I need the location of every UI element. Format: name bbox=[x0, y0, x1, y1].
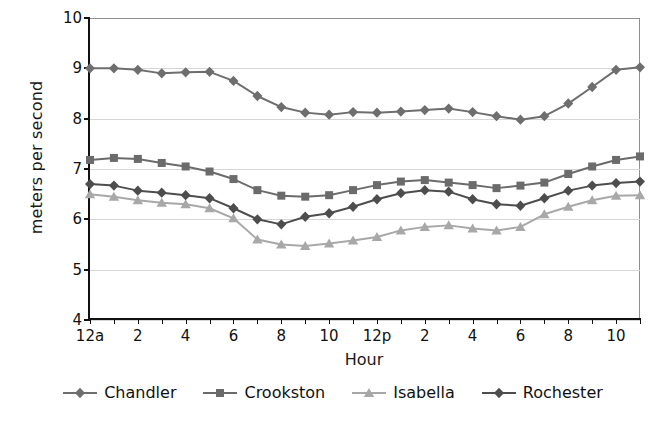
data-point-crookston-12 bbox=[373, 181, 381, 189]
chart-legend: ChandlerCrookstonIsabellaRochester bbox=[0, 383, 665, 402]
data-point-chandler-18 bbox=[515, 114, 525, 124]
data-point-crookston-6 bbox=[229, 175, 237, 183]
data-point-chandler-23 bbox=[635, 62, 645, 72]
x-tick-label-16: 4 bbox=[468, 327, 478, 345]
data-point-chandler-5 bbox=[205, 67, 215, 77]
data-point-rochester-13 bbox=[396, 188, 406, 198]
data-point-chandler-19 bbox=[539, 111, 549, 121]
data-point-crookston-7 bbox=[253, 186, 261, 194]
x-tick-label-0: 12a bbox=[76, 327, 104, 345]
data-point-crookston-18 bbox=[516, 182, 524, 190]
legend-item-rochester[interactable]: Rochester bbox=[481, 383, 603, 402]
y-tick-label-10: 10 bbox=[46, 9, 82, 27]
data-point-crookston-11 bbox=[349, 186, 357, 194]
data-point-chandler-2 bbox=[133, 65, 143, 75]
data-point-rochester-12 bbox=[372, 194, 382, 204]
series-chandler bbox=[85, 62, 645, 125]
data-point-chandler-6 bbox=[228, 76, 238, 86]
data-point-chandler-17 bbox=[492, 111, 502, 121]
data-point-rochester-15 bbox=[444, 186, 454, 196]
x-tick-label-12: 12p bbox=[363, 327, 392, 345]
data-point-rochester-18 bbox=[515, 201, 525, 211]
y-tick-label-8: 8 bbox=[46, 110, 82, 128]
series-line-chandler bbox=[90, 67, 640, 119]
data-point-rochester-2 bbox=[133, 185, 143, 195]
data-point-isabella-18 bbox=[515, 222, 525, 231]
data-point-chandler-16 bbox=[468, 107, 478, 117]
data-point-chandler-3 bbox=[157, 68, 167, 78]
data-point-crookston-10 bbox=[325, 191, 333, 199]
legend-item-chandler[interactable]: Chandler bbox=[62, 383, 176, 402]
wind-speed-line-chart: meters per second 45678910 12a24681012p2… bbox=[0, 0, 665, 423]
data-point-crookston-13 bbox=[397, 178, 405, 186]
data-point-crookston-3 bbox=[158, 159, 166, 167]
data-point-chandler-10 bbox=[324, 109, 334, 119]
legend-marker-diamond-icon bbox=[62, 385, 98, 401]
data-point-chandler-14 bbox=[420, 105, 430, 115]
x-tick-label-4: 4 bbox=[181, 327, 191, 345]
y-axis-title: meters per second bbox=[27, 38, 46, 278]
data-point-crookston-19 bbox=[540, 179, 548, 187]
data-point-crookston-14 bbox=[421, 176, 429, 184]
data-point-chandler-8 bbox=[276, 102, 286, 112]
legend-marker-triangle-icon bbox=[351, 385, 387, 401]
y-tick-label-9: 9 bbox=[46, 59, 82, 77]
data-point-crookston-17 bbox=[493, 184, 501, 192]
plot-area: 45678910 12a24681012p246810 bbox=[88, 18, 640, 320]
data-point-rochester-5 bbox=[205, 193, 215, 203]
data-point-crookston-1 bbox=[110, 154, 118, 162]
data-point-chandler-15 bbox=[444, 103, 454, 113]
gridline-y-4 bbox=[90, 320, 640, 321]
legend-marker-diamond-icon bbox=[481, 385, 517, 401]
data-point-crookston-23 bbox=[636, 152, 644, 160]
data-point-rochester-14 bbox=[420, 185, 430, 195]
data-point-chandler-11 bbox=[348, 107, 358, 117]
legend-label-isabella: Isabella bbox=[393, 383, 455, 402]
x-axis-title: Hour bbox=[88, 350, 640, 369]
data-point-chandler-7 bbox=[252, 91, 262, 101]
x-tick-label-8: 8 bbox=[277, 327, 287, 345]
data-point-rochester-11 bbox=[348, 202, 358, 212]
series-line-crookston bbox=[90, 156, 640, 196]
legend-item-isabella[interactable]: Isabella bbox=[351, 383, 455, 402]
data-point-rochester-3 bbox=[157, 187, 167, 197]
x-tick-label-22: 10 bbox=[607, 327, 626, 345]
data-point-rochester-1 bbox=[109, 180, 119, 190]
legend-item-crookston[interactable]: Crookston bbox=[202, 383, 325, 402]
data-point-crookston-8 bbox=[277, 192, 285, 200]
series-isabella bbox=[85, 189, 645, 250]
data-point-crookston-0 bbox=[86, 156, 94, 164]
data-point-crookston-2 bbox=[134, 155, 142, 163]
legend-label-chandler: Chandler bbox=[104, 383, 176, 402]
data-point-rochester-8 bbox=[276, 219, 286, 229]
data-point-crookston-21 bbox=[588, 162, 596, 170]
x-tick-label-10: 10 bbox=[320, 327, 339, 345]
data-point-rochester-16 bbox=[468, 194, 478, 204]
data-point-rochester-0 bbox=[85, 179, 95, 189]
data-point-rochester-19 bbox=[539, 193, 549, 203]
x-tick-label-2: 2 bbox=[133, 327, 143, 345]
data-point-rochester-23 bbox=[635, 176, 645, 186]
data-point-crookston-5 bbox=[206, 168, 214, 176]
data-point-rochester-9 bbox=[300, 212, 310, 222]
data-point-crookston-20 bbox=[564, 170, 572, 178]
data-point-rochester-22 bbox=[611, 178, 621, 188]
data-point-chandler-4 bbox=[181, 67, 191, 77]
data-point-rochester-20 bbox=[563, 185, 573, 195]
x-tick-label-18: 6 bbox=[516, 327, 526, 345]
data-series-layer bbox=[90, 18, 642, 320]
y-tick-label-5: 5 bbox=[46, 261, 82, 279]
data-point-crookston-16 bbox=[469, 181, 477, 189]
data-point-chandler-0 bbox=[85, 63, 95, 73]
x-tick-label-20: 8 bbox=[563, 327, 573, 345]
data-point-rochester-10 bbox=[324, 208, 334, 218]
data-point-chandler-13 bbox=[396, 106, 406, 116]
y-tick-label-6: 6 bbox=[46, 210, 82, 228]
data-point-rochester-6 bbox=[228, 203, 238, 213]
data-point-rochester-17 bbox=[492, 199, 502, 209]
legend-label-rochester: Rochester bbox=[523, 383, 603, 402]
data-point-crookston-15 bbox=[445, 179, 453, 187]
data-point-rochester-4 bbox=[181, 190, 191, 200]
data-point-chandler-12 bbox=[372, 107, 382, 117]
data-point-rochester-21 bbox=[587, 180, 597, 190]
